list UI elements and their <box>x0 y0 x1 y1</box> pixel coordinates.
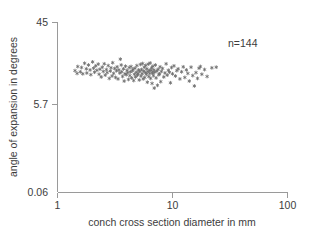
data-point <box>85 67 88 71</box>
data-point <box>180 70 183 74</box>
y-axis-title: angle of expansion in degrees <box>7 37 19 177</box>
data-point <box>122 67 125 71</box>
data-point <box>119 57 122 61</box>
data-point <box>103 62 106 66</box>
data-point <box>80 66 83 70</box>
data-point <box>172 64 175 68</box>
data-point <box>116 77 119 81</box>
data-point <box>146 80 149 84</box>
data-point <box>128 74 131 78</box>
data-point <box>188 79 191 83</box>
data-point <box>132 79 135 83</box>
data-point <box>111 61 114 65</box>
y-tick-label-45: 45 <box>36 16 48 28</box>
data-point <box>171 72 174 76</box>
data-point <box>170 66 173 70</box>
data-point <box>76 65 79 69</box>
x-tick-label-10: 10 <box>167 199 179 211</box>
data-point <box>183 76 186 80</box>
data-point <box>150 82 153 86</box>
data-point <box>89 73 92 77</box>
data-point <box>169 81 172 85</box>
data-point <box>203 68 206 72</box>
data-point <box>178 77 181 81</box>
data-point <box>130 76 133 80</box>
data-point <box>191 74 194 78</box>
plot-canvas: 45 5.7 0.06 1 10 100 conch cross section… <box>0 0 311 233</box>
data-point <box>127 78 130 82</box>
data-point <box>124 64 127 68</box>
data-point <box>114 76 117 80</box>
data-point <box>97 72 100 76</box>
data-point <box>102 70 105 74</box>
data-point <box>193 84 196 88</box>
data-point <box>85 71 88 75</box>
data-point <box>109 69 112 73</box>
scatter-plot-figure: 45 5.7 0.06 1 10 100 conch cross section… <box>0 0 311 233</box>
y-tick-label-5-7: 5.7 <box>33 98 48 110</box>
data-point <box>196 77 199 81</box>
data-point <box>87 63 90 67</box>
data-point <box>153 86 156 90</box>
data-point <box>162 75 165 79</box>
data-point <box>189 65 192 69</box>
x-axis-title: conch cross section diameter in mm <box>88 216 256 228</box>
data-point <box>73 69 76 73</box>
data-point <box>135 64 138 68</box>
data-point <box>121 75 124 79</box>
data-point <box>182 65 185 69</box>
data-point <box>205 75 208 79</box>
data-point <box>194 71 197 75</box>
y-tick-label-0-06: 0.06 <box>28 186 49 198</box>
data-point <box>138 78 141 82</box>
x-tick-label-100: 100 <box>279 199 297 211</box>
data-point <box>120 63 123 67</box>
data-point <box>112 71 115 75</box>
data-point <box>200 72 203 76</box>
data-point <box>100 75 103 79</box>
x-tick-label-1: 1 <box>55 199 61 211</box>
data-point <box>210 66 213 70</box>
sample-size-annotation: n=144 <box>228 37 258 49</box>
data-point <box>123 79 126 83</box>
data-point <box>91 60 94 64</box>
data-point <box>108 77 111 81</box>
data-point <box>185 68 188 72</box>
data-point <box>156 83 159 87</box>
data-point <box>159 80 162 84</box>
data-point <box>174 74 177 78</box>
data-point <box>215 65 218 69</box>
data-point <box>164 62 167 66</box>
data-points-layer <box>73 57 218 90</box>
data-point <box>75 71 78 75</box>
data-point <box>186 71 189 75</box>
data-point <box>110 74 113 78</box>
data-point <box>88 68 91 72</box>
data-point <box>104 73 107 77</box>
data-point <box>83 61 86 65</box>
